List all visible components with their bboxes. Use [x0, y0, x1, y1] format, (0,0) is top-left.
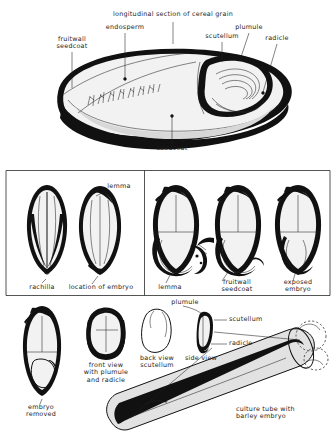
label-embryo-removed: embryo removed: [26, 404, 56, 419]
label-lemma-right: lemma: [158, 284, 181, 291]
label-plumule: plumule: [235, 24, 263, 31]
label-location-of-embryo: location of embryo: [69, 284, 134, 291]
grain-view-ventral: [79, 186, 121, 275]
label-side-view: side view: [185, 355, 217, 362]
label-back-view-scutellum: back view scutellum: [140, 355, 174, 370]
culture-tube-drawing: [107, 321, 328, 430]
dissection-seed-1: [152, 185, 207, 276]
embryo-front-view-drawing: [86, 308, 125, 360]
label-longitudinal-section-heading: longitudinal section of cereal grain: [113, 11, 233, 18]
label-fruitwall-seedcoat-mid: fruitwall seedcoat: [221, 279, 252, 294]
label-radicle: radicle: [265, 35, 288, 42]
label-radicle-bottom: radicle: [229, 340, 252, 347]
label-culture-tube: culture tube with barley embryo: [236, 406, 295, 421]
dissection-sequence-drawing: [152, 185, 321, 276]
label-front-view: front view with plumule and radicle: [84, 362, 128, 384]
grain-view-dorsal: [27, 185, 67, 275]
label-fruitwall-seedcoat-top: fruitwall seedcoat: [56, 36, 87, 51]
embryo-back-view-drawing: [142, 309, 172, 352]
grain-longitudinal-section-drawing: [57, 49, 292, 150]
dissection-seed-2: [197, 185, 264, 276]
label-lemma-left: lemma: [107, 183, 130, 190]
figure-artwork: [0, 0, 336, 445]
dissection-seed-3: [275, 185, 321, 275]
label-scutellum-bottom: scutellum: [229, 316, 262, 323]
label-exposed-embryo: exposed embryo: [284, 279, 313, 294]
whole-grain-views-drawing: [27, 185, 121, 275]
label-scutellum: scutellum: [205, 33, 238, 40]
label-seedcoat: seedcoat: [156, 145, 187, 152]
label-endosperm: endosperm: [106, 24, 144, 31]
embryo-removed-drawing: [23, 306, 61, 396]
label-plumule-bottom: plumule: [171, 299, 199, 306]
label-rachilla: rachilla: [29, 284, 54, 291]
embryo-side-view-drawing: [197, 312, 213, 353]
cereal-grain-anatomy-figure: longitudinal section of cereal grain end…: [0, 0, 336, 445]
